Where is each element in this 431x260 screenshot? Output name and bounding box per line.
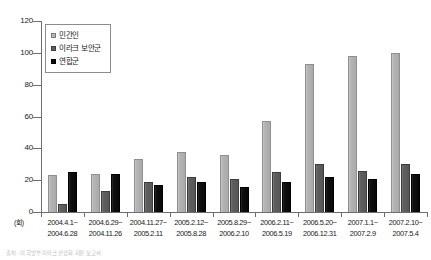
bar [111, 174, 120, 212]
legend-item: 이라크 보안군 [51, 42, 104, 55]
x-axis-tick-label-line1: 2004.4.1~ [47, 218, 77, 227]
bar [401, 164, 410, 212]
x-axis-tick-label: 2006.2.11~2006.5.19 [255, 217, 298, 243]
x-axis-tick-label: 2004.4.1~2004.6.28 [41, 217, 84, 243]
y-axis-tick [33, 85, 41, 86]
bar-group [170, 21, 213, 212]
bar-group [255, 21, 298, 212]
x-axis-tick-label-line1: 2007.1.1~ [348, 218, 378, 227]
bar [220, 155, 229, 212]
x-axis-tick-label: 2006.5.20~2006.12.31 [298, 217, 341, 243]
x-axis-tick-label-line1: 2004.11.27~ [130, 218, 167, 227]
x-axis-tick-label-line1: 2006.5.20~ [303, 218, 337, 227]
y-axis-tick-label: 80 [5, 81, 33, 89]
bar [262, 121, 271, 212]
y-axis-tick-label: 100 [5, 49, 33, 57]
bar [391, 53, 400, 212]
x-axis-tick-label-line2: 2004.11.26 [84, 228, 127, 239]
bar [305, 64, 314, 212]
y-axis-tick-label: 60 [5, 113, 33, 121]
x-axis-tick-label-line2: 2006.12.31 [298, 228, 341, 239]
y-axis-tick-label: 20 [5, 176, 33, 184]
x-axis-tick-label: 2004.11.27~2005.2.11 [127, 217, 170, 243]
x-axis-labels: 2004.4.1~2004.6.282004.6.29~2004.11.2620… [41, 217, 427, 243]
bar [368, 179, 377, 212]
legend: 민간인 이라크 보안군 연합군 [45, 24, 111, 73]
x-axis-tick-label-line2: 2007.2.9 [341, 228, 384, 239]
x-axis-tick-label-line2: 2006.2.10 [213, 228, 256, 239]
y-axis-tick [33, 180, 41, 181]
x-axis-tick-label-line1: 2007.2.10~ [389, 218, 423, 227]
x-axis-tick-label-line2: 2005.2.11 [127, 228, 170, 239]
x-axis-tick-label-line2: 2004.6.28 [41, 228, 84, 239]
y-axis-tick [33, 21, 41, 22]
x-axis-tick-label-line1: 2005.8.29~ [217, 218, 251, 227]
x-axis-tick-label-line1: 2004.6.29~ [88, 218, 122, 227]
x-axis-tick-label-line2: 2005.8.28 [170, 228, 213, 239]
bar [187, 177, 196, 212]
bar [315, 164, 324, 212]
bar [101, 191, 110, 212]
bar [144, 182, 153, 212]
bar [230, 179, 239, 212]
bar-group [213, 21, 256, 212]
legend-swatch-icon [51, 59, 56, 64]
bar-group [127, 21, 170, 212]
y-axis-tick-label: 0 [5, 208, 33, 216]
y-axis-tick [33, 53, 41, 54]
y-axis-tick [33, 148, 41, 149]
legend-swatch-icon [51, 33, 56, 38]
x-axis-tick-label-line2: 2006.5.19 [255, 228, 298, 239]
x-axis-tick-label-line1: 2006.2.11~ [260, 218, 293, 227]
bar [358, 171, 367, 212]
bar-group [341, 21, 384, 212]
x-axis-tick-label-line2: 2007.5.4 [384, 228, 427, 239]
bar [272, 172, 281, 212]
legend-item-label: 이라크 보안군 [59, 44, 101, 53]
x-axis-tick-label: 2007.1.1~2007.2.9 [341, 217, 384, 243]
bar [154, 185, 163, 212]
bar [68, 172, 77, 212]
bar [48, 175, 57, 212]
x-axis-tick-label-line1: 2005.2.12~ [174, 218, 208, 227]
bar [240, 187, 249, 212]
bar [348, 56, 357, 212]
legend-swatch-icon [51, 46, 56, 51]
x-axis-tick-label: 2005.2.12~2005.8.28 [170, 217, 213, 243]
x-axis-tick-label: 2005.8.29~2006.2.10 [213, 217, 256, 243]
bar [58, 204, 67, 212]
bar [197, 182, 206, 212]
bar-group [384, 21, 427, 212]
bar-group [298, 21, 341, 212]
y-axis-tick [33, 212, 41, 213]
bar [411, 174, 420, 212]
bar [134, 159, 143, 212]
y-axis-tick [33, 117, 41, 118]
legend-item-label: 연합군 [59, 57, 79, 66]
y-axis-tick-label: 120 [5, 17, 33, 25]
bar [282, 182, 291, 212]
legend-item: 연합군 [51, 55, 104, 68]
y-axis-unit-label: (회) [14, 219, 24, 227]
x-axis-tick [427, 212, 428, 217]
y-axis-tick-label: 40 [5, 144, 33, 152]
bar-chart: 020406080100120 2004.4.1~2004.6.282004.6… [0, 0, 431, 260]
legend-item-label: 민간인 [59, 31, 79, 40]
bar [177, 152, 186, 212]
legend-item: 민간인 [51, 29, 104, 42]
x-axis-tick-label: 2004.6.29~2004.11.26 [84, 217, 127, 243]
x-axis-tick-label: 2007.2.10~2007.5.4 [384, 217, 427, 243]
bar [91, 174, 100, 212]
chart-caption: 출처 : 미 국방부 이라크 안정화 지원 보고서 [6, 250, 100, 257]
bar [325, 177, 334, 212]
